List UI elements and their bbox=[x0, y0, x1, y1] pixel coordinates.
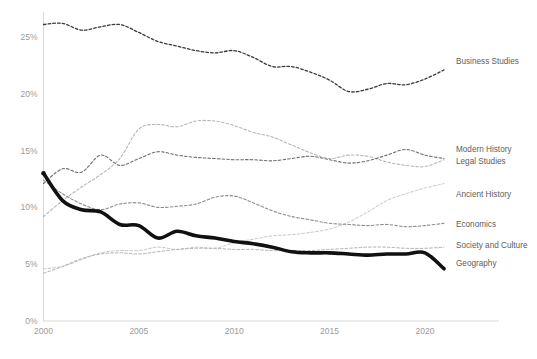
xtick-label-2010: 2010 bbox=[225, 326, 244, 336]
series-line-ancient-history[interactable] bbox=[44, 184, 445, 269]
line-chart: 0%5%10%15%20%25%20002005201020152020Busi… bbox=[0, 0, 537, 359]
series-label-geography[interactable]: Geography bbox=[456, 259, 497, 268]
ytick-label-5pct: 5% bbox=[25, 259, 38, 269]
ytick-label-20pct: 20% bbox=[20, 89, 37, 99]
series-line-geography[interactable] bbox=[44, 173, 445, 268]
series-label-modern-history[interactable]: Modern History bbox=[456, 145, 512, 154]
chart-container: 0%5%10%15%20%25%20002005201020152020Busi… bbox=[0, 0, 537, 359]
series-label-business-studies[interactable]: Business Studies bbox=[456, 57, 519, 66]
series-label-society-and-culture[interactable]: Society and Culture bbox=[456, 241, 528, 250]
series-label-ancient-history[interactable]: Ancient History bbox=[456, 190, 512, 199]
series-start-marker-geography bbox=[41, 171, 45, 175]
xtick-label-2020: 2020 bbox=[415, 326, 434, 336]
ytick-label-25pct: 25% bbox=[20, 32, 37, 42]
series-label-legal-studies[interactable]: Legal Studies bbox=[456, 157, 506, 166]
series-line-economics[interactable] bbox=[44, 180, 445, 227]
ytick-label-0pct: 0% bbox=[25, 316, 38, 326]
series-label-economics[interactable]: Economics bbox=[456, 220, 496, 229]
series-line-legal-studies[interactable] bbox=[44, 149, 445, 183]
xtick-label-2000: 2000 bbox=[34, 326, 53, 336]
xtick-label-2005: 2005 bbox=[129, 326, 148, 336]
series-line-society-and-culture[interactable] bbox=[44, 247, 445, 273]
ytick-label-15pct: 15% bbox=[20, 146, 37, 156]
series-line-business-studies[interactable] bbox=[44, 23, 445, 92]
xtick-label-2015: 2015 bbox=[320, 326, 339, 336]
ytick-label-10pct: 10% bbox=[20, 202, 37, 212]
